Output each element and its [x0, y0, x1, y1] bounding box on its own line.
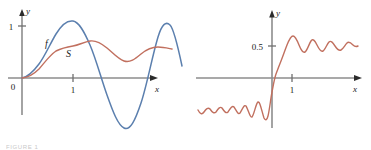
left-plot-svg: y x 1 1 0 f S [0, 0, 186, 150]
y-axis-arrow-left [19, 9, 25, 16]
chart-panel-right: y x 0.5 1 [186, 0, 371, 150]
x-tick-label-1-left: 1 [71, 85, 76, 95]
curve-label-s: S [66, 48, 71, 59]
y-tick-label-05-right: 0.5 [252, 42, 264, 52]
x-axis-label-right: x [352, 84, 357, 94]
x-axis-label-left: x [154, 84, 159, 94]
y-axis-arrow-right [269, 10, 275, 18]
curve-f-path [22, 21, 182, 129]
chart-panel-left: y x 1 1 0 f S [0, 0, 186, 150]
y-axis-label-right: y [275, 8, 280, 18]
x-axis-arrow-left [150, 75, 158, 81]
x-axis-arrow-right [354, 75, 362, 81]
y-tick-label-1-left: 1 [9, 22, 14, 32]
right-plot-svg: y x 0.5 1 [186, 0, 371, 150]
origin-label-left: 0 [11, 82, 16, 92]
x-tick-label-1-right: 1 [290, 85, 295, 95]
y-axis-label-left: y [25, 6, 30, 16]
figure-container: y x 1 1 0 f S y x 0.5 1 [0, 0, 371, 150]
figure-caption: FIGURE 1 [6, 144, 38, 150]
